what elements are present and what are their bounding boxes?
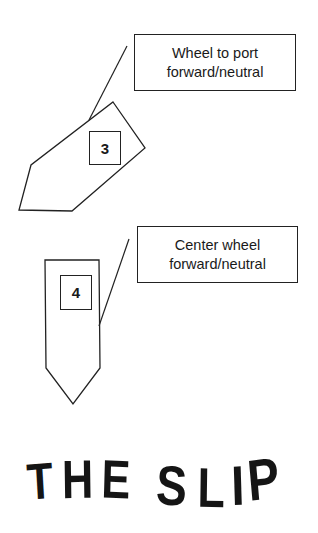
- callout-4-leader-line: [99, 239, 129, 326]
- title-letter-p: P: [245, 448, 282, 510]
- title-letter-h: H: [62, 452, 94, 507]
- title-letter-e: E: [101, 451, 131, 506]
- callout-3-line-2: forward/neutral: [167, 63, 264, 82]
- boat-3-shape: [19, 102, 145, 211]
- title-letter-l: L: [197, 460, 225, 517]
- callout-4-line-1: Center wheel: [169, 236, 266, 255]
- diagram-title: T H E S L I P: [22, 446, 282, 526]
- step-3-number: 3: [101, 140, 109, 157]
- callout-3-box: Wheel to port forward/neutral: [134, 34, 296, 91]
- callout-4-line-2: forward/neutral: [169, 255, 266, 274]
- title-letter-i: I: [230, 458, 245, 515]
- step-3-number-box: 3: [89, 131, 121, 165]
- callout-4-box: Center wheel forward/neutral: [137, 226, 298, 283]
- title-letter-s: S: [155, 457, 188, 515]
- step-4-number-box: 4: [60, 275, 92, 310]
- callout-3-line-1: Wheel to port: [167, 44, 264, 63]
- title-letter-t: T: [25, 454, 54, 507]
- step-4-number: 4: [72, 284, 80, 301]
